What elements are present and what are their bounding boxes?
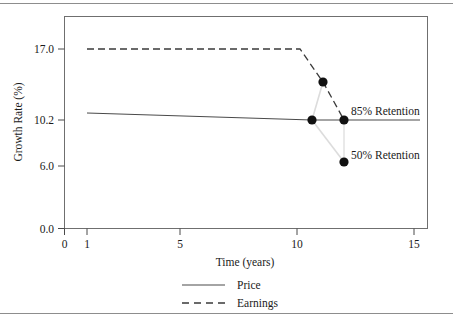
x-tick-label-15: 15 bbox=[408, 238, 420, 250]
annotation-50-retention: 50% Retention bbox=[351, 149, 420, 161]
series-earnings-line bbox=[87, 49, 344, 120]
legend-label-earnings: Earnings bbox=[237, 297, 278, 310]
x-axis-title: Time (years) bbox=[216, 256, 275, 269]
y-tick-label-17: 17.0 bbox=[34, 43, 54, 55]
y-axis-title: Growth Rate (%) bbox=[12, 82, 25, 161]
y-tick-label-10-2: 10.2 bbox=[34, 114, 54, 126]
figure-canvas: 17.0 10.2 6.0 0.0 Growth Rate (%) 0 1 5 … bbox=[0, 0, 453, 323]
plot-frame bbox=[65, 17, 428, 229]
x-axis-ticks bbox=[65, 229, 415, 236]
growth-rate-chart: 17.0 10.2 6.0 0.0 Growth Rate (%) 0 1 5 … bbox=[0, 0, 453, 323]
legend-label-price: Price bbox=[237, 279, 261, 291]
x-tick-label-1: 1 bbox=[84, 238, 90, 250]
x-tick-label-10: 10 bbox=[291, 238, 303, 250]
data-point-earnings-year11[interactable] bbox=[318, 77, 327, 86]
x-tick-label-0: 0 bbox=[62, 238, 68, 250]
y-tick-label-0: 0.0 bbox=[40, 223, 55, 235]
retention-connector-lines bbox=[312, 82, 344, 162]
annotation-85-retention: 85% Retention bbox=[351, 105, 420, 117]
chart-legend: Price Earnings bbox=[182, 279, 278, 310]
x-tick-label-5: 5 bbox=[177, 238, 183, 250]
y-tick-label-6: 6.0 bbox=[40, 160, 55, 172]
data-point-price-year10[interactable] bbox=[307, 115, 316, 124]
y-axis-ticks bbox=[58, 49, 65, 229]
data-point-50-retention[interactable] bbox=[339, 157, 348, 166]
data-point-85-retention[interactable] bbox=[339, 115, 348, 124]
